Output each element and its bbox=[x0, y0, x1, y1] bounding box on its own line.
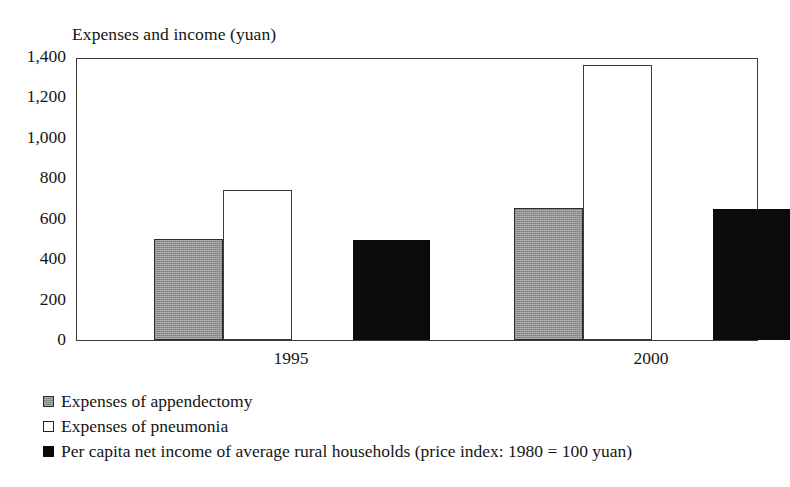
chart-legend: Expenses of appendectomyExpenses of pneu… bbox=[43, 391, 763, 466]
legend-item-label: Per capita net income of average rural h… bbox=[61, 441, 632, 461]
black-swatch-icon bbox=[43, 446, 54, 457]
y-axis-tick-label: 0 bbox=[57, 329, 66, 350]
legend-item-1: Expenses of appendectomy bbox=[43, 391, 763, 416]
x-axis-label-2000: 2000 bbox=[513, 348, 789, 369]
bar-2000-series-1 bbox=[514, 208, 583, 340]
bar-2000-series-2 bbox=[583, 65, 652, 340]
y-axis-tick-label: 200 bbox=[40, 289, 66, 310]
legend-item-label: Expenses of appendectomy bbox=[61, 391, 252, 411]
y-axis-tick-label: 800 bbox=[40, 167, 66, 188]
plot-area bbox=[76, 58, 758, 341]
x-axis-label-1995: 1995 bbox=[153, 348, 429, 369]
y-axis-tick-label: 400 bbox=[40, 248, 66, 269]
chart-axis-title: Expenses and income (yuan) bbox=[72, 24, 276, 45]
white-swatch-icon bbox=[43, 421, 54, 432]
y-axis-tick-label: 1,200 bbox=[27, 86, 66, 107]
bar-1995-series-3 bbox=[353, 240, 430, 340]
plot-inner bbox=[77, 59, 757, 340]
legend-item-label: Expenses of pneumonia bbox=[61, 416, 228, 436]
legend-item-3: Per capita net income of average rural h… bbox=[43, 441, 763, 466]
bar-1995-series-2 bbox=[223, 190, 292, 340]
y-axis-tick-label: 1,400 bbox=[27, 46, 66, 67]
bar-1995-series-1 bbox=[154, 239, 223, 340]
gray-swatch-icon bbox=[43, 396, 54, 407]
y-axis-tick-label: 1,000 bbox=[27, 127, 66, 148]
legend-item-2: Expenses of pneumonia bbox=[43, 416, 763, 441]
bar-2000-series-3 bbox=[713, 209, 790, 340]
y-axis-tick-label: 600 bbox=[40, 208, 66, 229]
